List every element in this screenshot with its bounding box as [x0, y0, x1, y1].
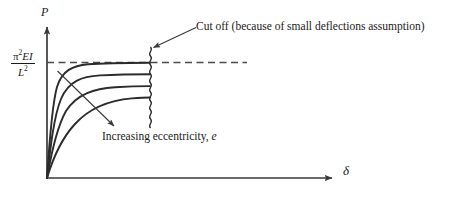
increasing-eccentricity-annotation-text: Increasing eccentricity, e: [102, 131, 217, 143]
eccentricity-text: Increasing eccentricity,: [102, 130, 211, 142]
cutoff-annotation-text: Cut off (because of small deflections as…: [196, 21, 424, 33]
euler-load-EI: EI: [22, 50, 32, 62]
buckling-curve-group: [47, 63, 150, 178]
increasing-eccentricity-arrow[interactable]: [58, 71, 115, 126]
euler-load-denominator: L2: [11, 64, 35, 78]
eccentricity-symbol: e: [211, 130, 216, 142]
cutoff-wavy-line: [150, 47, 152, 128]
cutoff-arrow[interactable]: [154, 28, 197, 48]
euler-load-numerator: π2EI: [11, 49, 35, 64]
x-axis-label: δ: [343, 164, 349, 177]
load-deflection-diagram: P δ π2EI L2 Cut off (because of small de…: [0, 0, 450, 211]
y-axis-label: P: [41, 6, 48, 18]
euler-critical-load-label: π2EI L2: [11, 49, 35, 77]
length-exponent: 2: [24, 64, 28, 73]
